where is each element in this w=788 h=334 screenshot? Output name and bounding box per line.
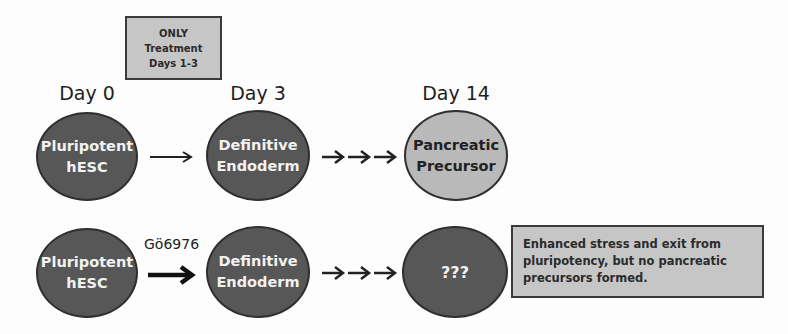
triple-arrow-icon	[322, 149, 398, 165]
node-label: ???	[441, 262, 469, 283]
bold-arrow-icon	[148, 265, 198, 285]
definitive-endoderm-node-treated: Definitive Endoderm	[206, 226, 310, 318]
node-label: Endoderm	[216, 272, 299, 293]
outcome-note: Enhanced stress and exit from pluripoten…	[511, 225, 764, 298]
pancreatic-precursor-node: Pancreatic Precursor	[404, 110, 508, 201]
arrow-icon	[150, 150, 196, 164]
note-line: Treatment	[144, 41, 202, 56]
node-label: Definitive	[218, 135, 297, 156]
node-label: Pluripotent	[41, 136, 133, 157]
definitive-endoderm-node: Definitive Endoderm	[206, 110, 310, 201]
pluripotent-hesc-node: Pluripotent hESC	[36, 112, 138, 201]
triple-arrow-icon	[322, 265, 398, 281]
day-3-label: Day 3	[203, 82, 313, 104]
note-line: ONLY	[159, 26, 188, 41]
node-label: Endoderm	[216, 156, 299, 177]
note-line: precursors formed.	[523, 270, 648, 287]
node-label: hESC	[66, 273, 107, 294]
day-0-label: Day 0	[32, 82, 142, 104]
node-label: hESC	[66, 157, 107, 178]
note-line: Days 1-3	[149, 56, 198, 71]
unknown-outcome-node: ???	[402, 226, 508, 318]
node-label: Pancreatic	[413, 135, 499, 156]
day-14-label: Day 14	[401, 82, 511, 104]
note-line: pluripotency, but no pancreatic	[523, 253, 727, 270]
go6976-treatment-label: Gö6976	[144, 236, 199, 252]
treatment-window-note: ONLY Treatment Days 1-3	[125, 16, 222, 80]
node-label: Pluripotent	[41, 252, 133, 273]
pluripotent-hesc-node-treated: Pluripotent hESC	[36, 228, 138, 318]
note-line: Enhanced stress and exit from	[523, 236, 721, 253]
node-label: Precursor	[416, 156, 495, 177]
node-label: Definitive	[218, 251, 297, 272]
